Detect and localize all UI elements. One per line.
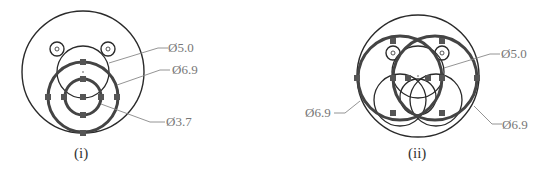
label-d3-7: Ø3.7 bbox=[166, 114, 192, 129]
handle[interactable] bbox=[80, 94, 86, 100]
diagram-canvas: Ø5.0 Ø6.9 Ø3.7 (i) Ø5.0 Ø6.9 Ø6.9 (ii) bbox=[0, 0, 547, 170]
small-hole-left bbox=[50, 42, 64, 56]
handle[interactable] bbox=[45, 94, 51, 100]
label-d5-0: Ø5.0 bbox=[168, 40, 194, 55]
handle[interactable] bbox=[439, 110, 445, 116]
handle[interactable] bbox=[114, 94, 120, 100]
caption-i: (i) bbox=[74, 145, 88, 162]
caption-ii: (ii) bbox=[408, 145, 426, 162]
center-dot bbox=[82, 71, 84, 73]
handle[interactable] bbox=[80, 130, 86, 136]
label-d6-9-left: Ø6.9 bbox=[305, 105, 331, 120]
small-hole-left-inner bbox=[55, 47, 59, 51]
label-d6-9: Ø6.9 bbox=[172, 62, 198, 77]
handle[interactable] bbox=[80, 76, 86, 82]
small-hole-right-inner bbox=[106, 47, 110, 51]
handle[interactable] bbox=[390, 38, 396, 44]
label-d5-0: Ø5.0 bbox=[501, 46, 527, 61]
small-hole-left-inner bbox=[391, 51, 395, 55]
handle[interactable] bbox=[439, 38, 445, 44]
handle[interactable] bbox=[425, 75, 431, 81]
handle[interactable] bbox=[439, 75, 445, 81]
handle[interactable] bbox=[80, 59, 86, 65]
handle[interactable] bbox=[61, 94, 67, 100]
small-hole-right-inner bbox=[440, 51, 444, 55]
center-dot bbox=[417, 75, 419, 77]
label-d6-9-right: Ø6.9 bbox=[502, 117, 528, 132]
handle[interactable] bbox=[474, 75, 480, 81]
handle[interactable] bbox=[405, 75, 411, 81]
handle[interactable] bbox=[98, 94, 104, 100]
handle[interactable] bbox=[390, 110, 396, 116]
handle[interactable] bbox=[390, 75, 396, 81]
handle[interactable] bbox=[80, 112, 86, 118]
figure-i-leaders bbox=[101, 48, 170, 122]
handle[interactable] bbox=[354, 75, 360, 81]
small-hole-right bbox=[101, 42, 115, 56]
